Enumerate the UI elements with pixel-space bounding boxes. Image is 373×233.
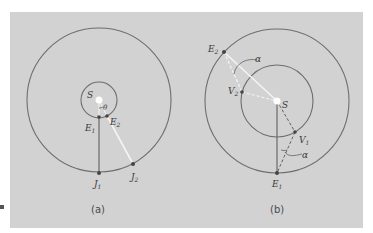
angle-alpha-label-bottom: α xyxy=(302,150,308,160)
point-e1 xyxy=(97,115,101,119)
angle-alpha-label-top: α xyxy=(255,54,261,64)
point-v2 xyxy=(240,90,244,94)
sun-label: S xyxy=(87,90,93,100)
point-e2 xyxy=(222,50,226,54)
point-j2 xyxy=(131,162,135,166)
point-e2 xyxy=(105,114,109,118)
sun-icon xyxy=(274,98,281,105)
sun-label: S xyxy=(282,100,288,110)
caption-b: (b) xyxy=(270,204,284,215)
sun-icon xyxy=(96,97,103,104)
orbit-diagram: S θ E1 E2 J1 J2 (a) S α α xyxy=(0,0,373,233)
point-e1 xyxy=(275,171,279,175)
point-v1 xyxy=(293,130,297,134)
figure-background xyxy=(10,12,363,228)
margin-mark xyxy=(0,205,4,209)
caption-a: (a) xyxy=(91,204,105,215)
point-j1 xyxy=(97,171,101,175)
